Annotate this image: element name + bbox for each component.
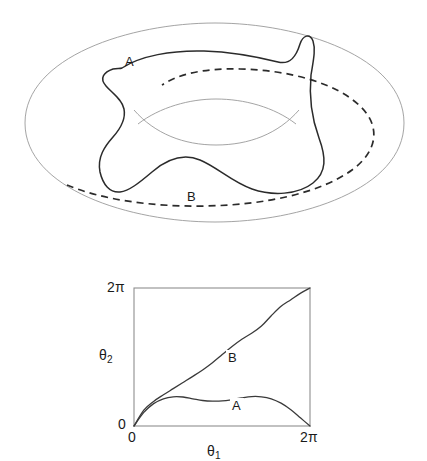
- y-axis-title: θ2: [99, 348, 113, 365]
- figure-root: A B B A 2π 0 θ2 0 2π θ1: [0, 0, 427, 461]
- x-tick-max: 2π: [300, 430, 318, 444]
- x-axis-title-sub: 1: [215, 450, 221, 461]
- y-axis-title-sub: 2: [107, 354, 113, 365]
- plot-label-a: A: [232, 399, 241, 412]
- x-axis-title-base: θ: [207, 443, 215, 459]
- x-tick-origin: 0: [128, 430, 136, 444]
- y-axis-title-base: θ: [99, 347, 107, 363]
- x-axis-title: θ1: [207, 444, 221, 461]
- y-tick-origin: 0: [118, 417, 126, 431]
- plot-label-b: B: [228, 351, 237, 364]
- y-tick-max: 2π: [107, 280, 125, 294]
- plot-curve-a-path: [134, 396, 310, 426]
- theta-plot: [0, 0, 427, 461]
